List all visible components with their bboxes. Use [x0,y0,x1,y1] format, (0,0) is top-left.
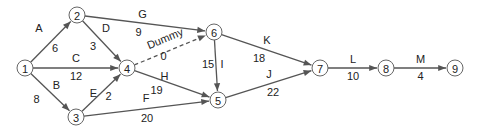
node-label: 4 [124,63,130,75]
duration-label: 20 [141,112,153,124]
node-label: 8 [383,63,389,75]
node-2: 2 [69,7,85,23]
network-diagram: A6C12B8G9D3E2F20Dummy0H19I15K18J22L10M4 … [0,0,483,133]
duration-label: 9 [135,26,141,38]
activity-label: G [138,8,147,20]
duration-label: 3 [90,40,96,52]
node-label: 9 [452,63,458,75]
activity-label: F [143,92,150,104]
activity-label: K [263,34,271,46]
duration-label: 6 [52,42,58,54]
duration-label: 0 [160,50,166,62]
node-label: 1 [22,63,28,75]
node-3: 3 [68,109,84,125]
duration-label: 18 [253,52,265,64]
activity-label: B [53,79,60,91]
edge-e [82,74,121,111]
node-label: 3 [73,112,79,124]
activity-label: D [102,22,110,34]
duration-label: 22 [267,86,279,98]
activity-label: L [350,53,356,65]
duration-label: 15 [202,58,214,70]
activity-label: M [416,53,425,65]
node-label: 7 [317,63,323,75]
duration-label: 4 [417,70,423,82]
activity-label: A [35,22,43,34]
node-8: 8 [378,60,394,76]
duration-label: 12 [70,70,82,82]
node-1: 1 [17,60,33,76]
node-4: 4 [119,60,135,76]
arrow-icon [82,74,121,111]
duration-label: 19 [150,84,162,96]
node-label: 2 [74,10,80,22]
arrow-icon [214,40,217,91]
duration-label: 2 [105,90,111,102]
node-6: 6 [206,24,222,40]
node-9: 9 [447,60,463,76]
activity-label: E [90,87,97,99]
duration-label: 10 [347,70,359,82]
activity-label: H [161,70,169,82]
node-5: 5 [210,92,226,108]
node-label: 6 [211,27,217,39]
node-label: 5 [215,95,221,107]
activity-label: J [266,68,272,80]
activity-label: Dummy [145,25,185,51]
duration-label: 8 [33,93,39,105]
activity-label: C [72,52,80,64]
node-7: 7 [312,60,328,76]
activity-label: I [220,58,223,70]
diagram-svg: A6C12B8G9D3E2F20Dummy0H19I15K18J22L10M4 … [0,0,483,133]
edge-i [214,40,217,91]
